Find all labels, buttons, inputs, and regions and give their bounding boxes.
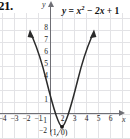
vertex-annotation-label: (1, 0) [50,128,67,137]
parabola-path [31,35,92,127]
parabola-curve [0,0,130,139]
curve-arrow-right-icon [90,30,97,39]
graph-figure: 21. y = x2 − 2x + 1 y x −4 −3 −2 −1 2 3 [0,0,130,139]
curve-arrow-left-icon [28,30,35,39]
